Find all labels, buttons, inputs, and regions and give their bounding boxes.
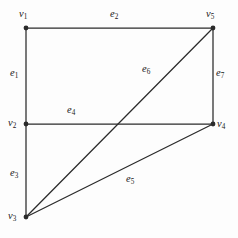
edge-label-e1-base: e: [10, 67, 15, 78]
vertex-label-v5-subscript: 5: [211, 13, 215, 21]
edge-label-e5: e5: [126, 174, 134, 185]
edge-label-e2-base: e: [110, 8, 115, 19]
edge-label-e7: e7: [216, 68, 224, 79]
vertex-label-v3: v3: [8, 211, 16, 222]
edge-label-e5-base: e: [126, 173, 131, 184]
edge-label-e1: e1: [10, 68, 18, 79]
edge-label-e4-base: e: [67, 104, 72, 115]
edge-label-e6: e6: [142, 64, 150, 75]
edge-label-e4: e4: [67, 105, 75, 116]
edge-label-e3: e3: [10, 168, 18, 179]
graph-vertex-v1: [24, 26, 29, 31]
edge-label-e3-base: e: [10, 167, 15, 178]
edge-label-e7-subscript: 7: [221, 72, 225, 80]
vertex-label-v1-subscript: 1: [24, 13, 28, 21]
vertex-label-v1-base: v: [19, 8, 24, 19]
vertex-label-v2-base: v: [8, 117, 13, 128]
edge-label-e3-subscript: 3: [15, 172, 19, 180]
graph-vertex-v4: [211, 122, 216, 127]
edge-label-e2-subscript: 2: [115, 13, 119, 21]
graph-vertex-v5: [211, 26, 216, 31]
edge-layer: [26, 28, 213, 217]
vertex-label-v2: v2: [8, 118, 16, 129]
graph-edge-e5: [26, 124, 213, 217]
edge-label-e2: e2: [110, 9, 118, 20]
edge-label-e4-subscript: 4: [72, 109, 76, 117]
vertex-label-v4-base: v: [217, 118, 222, 129]
vertex-label-v5: v5: [206, 9, 214, 20]
vertex-label-v5-base: v: [206, 8, 211, 19]
edge-label-e1-subscript: 1: [15, 72, 19, 80]
edge-label-e6-base: e: [142, 63, 147, 74]
graph-canvas: [0, 0, 238, 238]
vertex-label-v1: v1: [19, 9, 27, 20]
vertex-label-v4-subscript: 4: [222, 123, 226, 131]
graph-edge-e6: [26, 28, 213, 217]
graph-vertex-v3: [24, 215, 29, 220]
edge-label-e6-subscript: 6: [147, 68, 151, 76]
edge-label-e5-subscript: 5: [131, 178, 135, 186]
vertex-label-v4: v4: [217, 119, 225, 130]
edge-label-e7-base: e: [216, 67, 221, 78]
vertex-label-v3-subscript: 3: [13, 215, 17, 223]
graph-diagram: v1v5v2v4v3e1e2e3e4e5e6e7: [0, 0, 238, 238]
graph-vertex-v2: [24, 122, 29, 127]
vertex-label-v3-base: v: [8, 210, 13, 221]
vertex-label-v2-subscript: 2: [13, 122, 17, 130]
